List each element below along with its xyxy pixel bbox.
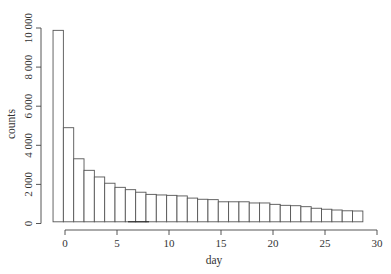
histogram-bar (156, 195, 166, 222)
x-tick-label: 5 (114, 237, 120, 249)
histogram-bar (280, 205, 290, 221)
histogram-bar (342, 211, 352, 222)
histogram-bar (301, 207, 311, 222)
y-axis: 02 0004 0006 0008 00010 000 (22, 12, 41, 226)
histogram-bar (115, 187, 125, 221)
histogram-bar (322, 209, 332, 222)
histogram-bar (249, 203, 259, 222)
histogram-bar (74, 159, 84, 222)
x-tick-label: 20 (268, 237, 280, 249)
histogram-bar (105, 183, 115, 222)
histogram-bar (291, 206, 301, 222)
y-tick-label: 8 000 (22, 54, 34, 79)
histogram-bar (84, 170, 94, 221)
histogram-bar (63, 128, 73, 222)
y-tick-label: 6 000 (22, 93, 34, 118)
histogram-bar (229, 202, 239, 222)
histogram-bar (94, 177, 104, 222)
histogram-bar (136, 192, 146, 222)
y-axis-title: counts (5, 108, 17, 139)
y-tick-label: 0 (22, 220, 34, 226)
histogram-bar (218, 202, 228, 222)
x-tick-label: 10 (164, 237, 176, 249)
histogram-bar (332, 210, 342, 222)
histogram-bar (208, 200, 218, 222)
histogram-bar (239, 202, 249, 222)
histogram-bar (167, 195, 177, 221)
x-tick-label: 30 (372, 237, 384, 249)
x-tick-label: 15 (216, 237, 228, 249)
histogram-bar (353, 211, 363, 222)
x-axis-title: day (206, 254, 223, 267)
histogram-bar (146, 194, 156, 221)
y-tick-label: 10 000 (22, 12, 34, 43)
histogram-bars (53, 30, 363, 221)
histogram-bar (311, 208, 321, 222)
histogram-bar (270, 204, 280, 221)
histogram-bar (260, 203, 270, 222)
y-tick-label: 2 000 (22, 172, 34, 197)
histogram-bar (187, 198, 197, 222)
histogram-bar (53, 30, 63, 221)
x-tick-label: 0 (62, 237, 68, 249)
histogram-bar (125, 190, 135, 222)
histogram-bar (177, 196, 187, 222)
x-tick-label: 25 (320, 237, 332, 249)
x-axis: 051015202530 (62, 230, 383, 249)
y-tick-label: 4 000 (22, 132, 34, 157)
histogram-chart: 02 0004 0006 0008 00010 000 051015202530… (0, 0, 391, 274)
histogram-bar (198, 199, 208, 222)
